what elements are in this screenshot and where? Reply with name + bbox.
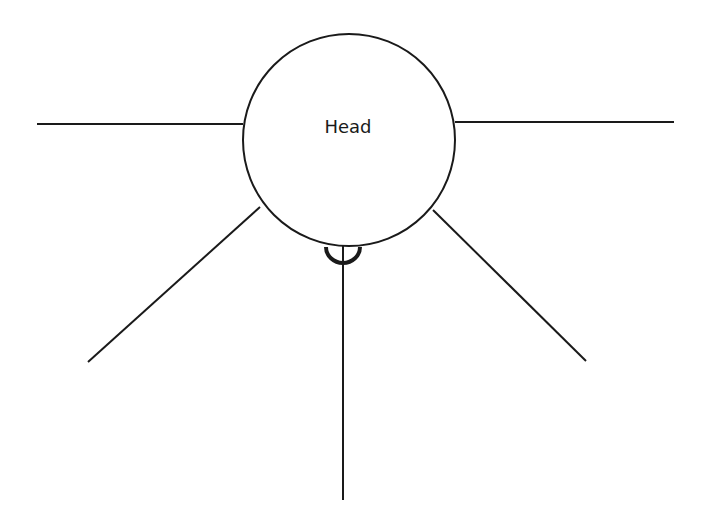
fishbone-diagram: Head [0,0,713,531]
head-label: Head [324,116,371,137]
lower-right-diagonal-line [433,210,586,361]
head-circle [243,34,455,246]
lower-left-diagonal-line [88,207,260,362]
